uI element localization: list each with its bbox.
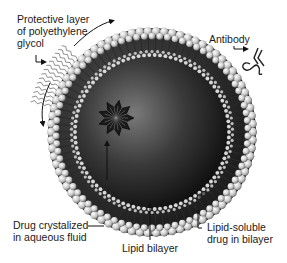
aqueous-core: [76, 56, 228, 208]
label-lipid-bilayer: Lipid bilayer: [122, 242, 178, 254]
label-lipid-drug-line2: drug in bilayer: [207, 233, 273, 245]
antibody-icon: [243, 48, 264, 74]
label-drug-crystalized: Drug crystalized in aqueous fluid: [13, 219, 88, 243]
label-peg-line1: Protective layer: [17, 13, 89, 25]
lipid-soluble-drug-icon: [198, 192, 210, 200]
label-peg-line3: glycol: [17, 37, 89, 49]
label-peg-line2: of polyethylene: [17, 25, 89, 37]
label-lipid-drug-line1: Lipid-soluble: [207, 221, 273, 233]
label-drug-cryst-line1: Drug crystalized: [13, 219, 88, 231]
label-peg-layer: Protective layer of polyethylene glycol: [17, 13, 89, 49]
label-drug-cryst-line2: in aqueous fluid: [13, 231, 88, 243]
label-antibody: Antibody: [209, 33, 250, 45]
label-lipid-soluble-drug: Lipid-soluble drug in bilayer: [207, 221, 273, 245]
